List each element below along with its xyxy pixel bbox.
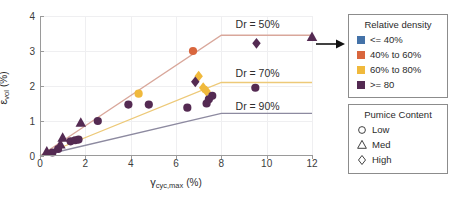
legend-item-label: <= 40% (370, 34, 403, 45)
y-axis-subscript: vol (2, 90, 11, 100)
legend-pumice-content-rows: LowMedHigh (349, 122, 447, 167)
triangle-icon (357, 140, 367, 150)
legend-relative-density-title: Relative density (349, 19, 447, 30)
data-point (183, 104, 191, 112)
legend-color-swatch (357, 81, 365, 89)
plot-area: 02468101201234 Dr = 50%Dr = 70%Dr = 90% (40, 16, 312, 156)
x-axis-unit: (%) (186, 177, 202, 188)
data-point (252, 38, 260, 49)
diamond-icon (357, 155, 367, 165)
legend-item-label: >= 80 (370, 79, 394, 90)
legend-item[interactable]: Med (349, 137, 447, 152)
legend-item-label: 60% to 80% (370, 64, 421, 75)
legend-item[interactable]: >= 80 (349, 77, 447, 92)
data-point (57, 132, 68, 142)
data-layer (40, 16, 312, 156)
scatter-series (191, 38, 261, 87)
legend-color-swatch (357, 36, 365, 44)
data-point (124, 100, 132, 108)
legend-relative-density-rows: <= 40%40% to 60%60% to 80%>= 80 (349, 32, 447, 92)
x-axis-title: γcyc,max (%) (150, 176, 202, 190)
scatter-series (42, 31, 318, 155)
right-arrow-annotation (316, 38, 346, 50)
x-tick-label: 0 (37, 158, 43, 169)
data-point (94, 117, 102, 125)
legend-item[interactable]: 40% to 60% (349, 47, 447, 62)
y-tick (40, 156, 44, 157)
curve-label: Dr = 70% (236, 67, 280, 79)
legend-color-swatch (357, 66, 365, 74)
x-axis-subscript: cyc,max (156, 181, 184, 190)
legend-item-label: 40% to 60% (370, 49, 421, 60)
legend-color-swatch (357, 51, 365, 59)
x-tick-label: 8 (219, 158, 225, 169)
legend-pumice-content-title: Pumice Content (349, 109, 447, 120)
data-point (203, 99, 211, 107)
scatter-series (189, 47, 197, 55)
y-tick-label: 0 (29, 151, 35, 162)
legend-item[interactable]: 60% to 80% (349, 62, 447, 77)
legend-relative-density: Relative density <= 40%40% to 60%60% to … (348, 14, 448, 98)
data-point (208, 92, 216, 100)
y-tick-label: 4 (29, 11, 35, 22)
data-point (76, 117, 87, 127)
y-tick (40, 86, 44, 87)
data-point (145, 100, 153, 108)
y-axis-symbol: ε (0, 100, 9, 105)
y-tick-label: 3 (29, 46, 35, 57)
y-axis-title: εvol (%) (0, 71, 11, 104)
chart-figure: 02468101201234 Dr = 50%Dr = 70%Dr = 90% … (0, 0, 452, 208)
legend-item[interactable]: Low (349, 122, 447, 137)
plot-inner: 02468101201234 Dr = 50%Dr = 70%Dr = 90% (40, 16, 312, 156)
legend-item-label: High (372, 154, 392, 165)
x-tick-label: 2 (83, 158, 89, 169)
legend-item[interactable]: High (349, 152, 447, 167)
y-tick (40, 16, 44, 17)
y-tick (40, 121, 44, 122)
legend-item-label: Med (372, 139, 390, 150)
legend-item-label: Low (372, 124, 389, 135)
data-point (135, 90, 143, 98)
y-tick-label: 2 (29, 81, 35, 92)
y-tick-label: 1 (29, 116, 35, 127)
legend-item[interactable]: <= 40% (349, 32, 447, 47)
x-tick-label: 4 (128, 158, 134, 169)
x-tick-label: 6 (173, 158, 179, 169)
y-tick (40, 51, 44, 52)
legend-pumice-content: Pumice Content LowMedHigh (348, 104, 448, 174)
data-point (189, 47, 197, 55)
scatter-series (135, 90, 143, 98)
data-point (251, 84, 259, 92)
x-tick-label: 10 (261, 158, 272, 169)
curve-label: Dr = 50% (236, 18, 280, 30)
x-tick-label: 12 (306, 158, 317, 169)
y-axis-unit: (%) (0, 71, 9, 87)
data-point (74, 135, 82, 143)
curve-label: Dr = 90% (236, 100, 280, 112)
circle-icon (357, 125, 367, 135)
